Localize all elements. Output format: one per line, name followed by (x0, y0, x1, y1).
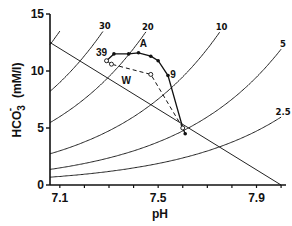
isobars: 30201052.5 (50, 21, 291, 177)
y-axis-title-sub: 3 (16, 105, 27, 111)
annotation-label: A (140, 38, 147, 49)
y-axis-title: HCO3-(mM/l) (4, 63, 27, 138)
x-axis-title: pH (152, 207, 168, 221)
y-axis-title-units: (mM/l) (10, 63, 24, 98)
series-A-point (137, 51, 141, 55)
y-axis-title-sup: - (4, 108, 15, 111)
isobar-30 (50, 32, 103, 92)
series-W-point (105, 59, 109, 63)
isobar-label: 2.5 (276, 107, 291, 117)
series-W-point (181, 126, 185, 130)
y-tick-label: 5 (37, 121, 44, 135)
series-A-point (112, 52, 116, 56)
isobar-label: 20 (142, 22, 154, 32)
annotation-label: W (121, 75, 131, 86)
isobar-label: 5 (280, 39, 286, 49)
series-A-point (183, 132, 187, 136)
y-tick-label: 15 (31, 7, 45, 21)
x-tick-label: 7.9 (248, 191, 265, 205)
isobar-10 (50, 32, 220, 154)
series-W-point (149, 72, 153, 76)
annotation-label: 39 (96, 47, 108, 58)
y-tick-label: 10 (31, 64, 45, 78)
x-tick-label: 7.1 (51, 191, 68, 205)
annotation-label: 9 (170, 69, 176, 80)
isobar-5 (50, 49, 281, 169)
isobar-2_5 (50, 117, 281, 177)
series-W-point (109, 62, 113, 66)
x-tick-label: 7.5 (150, 191, 167, 205)
isobar-45 (50, 31, 60, 44)
davenport-chart: 30201052.5 AW399 0510157.17.57.9 pH HCO3… (0, 0, 292, 226)
svg-text:HCO3-(mM/l): HCO3-(mM/l) (4, 63, 27, 138)
y-axis-title-main: HCO (10, 111, 24, 138)
series-A-line (107, 53, 186, 134)
series-A-point (127, 52, 131, 56)
y-tick-label: 0 (37, 178, 44, 192)
series-group: AW399 (96, 38, 187, 135)
isobar-label: 10 (216, 22, 228, 32)
isobar-label: 30 (99, 21, 111, 31)
series-A-point (149, 54, 153, 58)
series-A-point (156, 59, 160, 63)
